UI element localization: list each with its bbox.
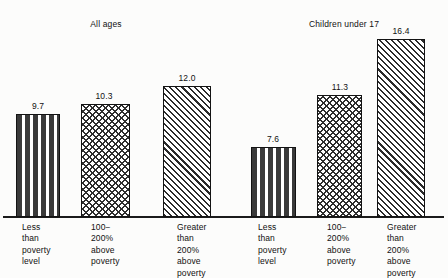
bar-all-ages-100-200-percent-above-poverty (81, 104, 130, 217)
bar-value-label: 11.3 (332, 82, 348, 92)
category-label: Less than poverty level (22, 222, 51, 268)
bar-all-ages-less-than-poverty-level (16, 114, 60, 217)
bar-value-label: 10.3 (96, 91, 113, 101)
bar-chart: All ages Children under 17 9.7 Less than… (0, 0, 448, 278)
category-label: Greater than 200% above poverty (387, 222, 417, 278)
bar-children-less-than-poverty-level (251, 147, 296, 217)
bar-children-100-200-percent-above-poverty (317, 95, 362, 217)
bar-value-label: 7.6 (267, 134, 279, 144)
bar-value-label: 16.4 (393, 26, 410, 36)
category-label: 100− 200% above poverty (327, 222, 356, 268)
category-label: Greater than 200% above poverty (177, 222, 207, 278)
panel-title-children-under-17: Children under 17 (309, 19, 379, 29)
category-label: Less than poverty level (258, 222, 287, 268)
bar-all-ages-greater-than-200-percent-above-poverty (163, 86, 211, 217)
category-label: 100− 200% above poverty (91, 222, 120, 268)
bar-value-label: 12.0 (179, 73, 196, 83)
bar-value-label: 9.7 (32, 101, 44, 111)
panel-title-all-ages: All ages (90, 19, 121, 29)
bar-children-greater-than-200-percent-above-poverty (377, 39, 425, 217)
